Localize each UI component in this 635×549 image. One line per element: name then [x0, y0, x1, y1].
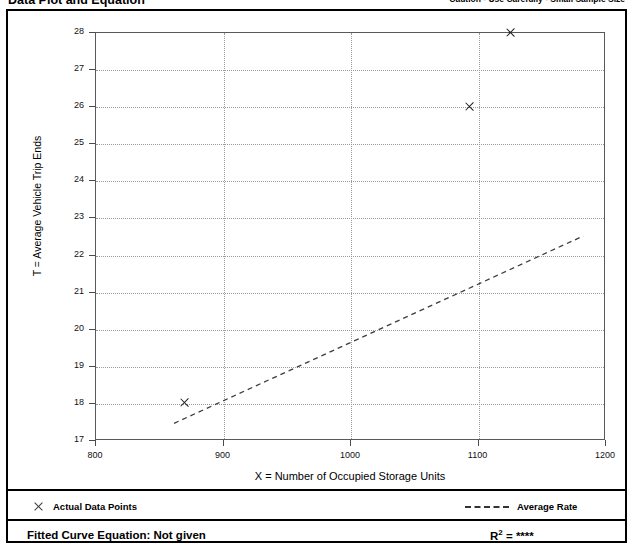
- y-axis-tick-label: 21: [54, 286, 84, 296]
- equation-divider: [8, 519, 625, 521]
- gridline-horizontal: [96, 70, 604, 71]
- plot-area: [95, 32, 605, 440]
- x-axis-tick-label: 1000: [327, 450, 373, 460]
- legend-row: Actual Data Points Average Rate: [0, 493, 635, 517]
- x-axis-tick: [350, 440, 351, 446]
- gridline-vertical: [224, 33, 225, 439]
- y-axis-tick-label: 25: [54, 137, 84, 147]
- gridline-horizontal: [96, 144, 604, 145]
- legend-label-average-rate: Average Rate: [517, 501, 577, 512]
- y-axis-tick-label: 24: [54, 174, 84, 184]
- gridline-horizontal: [96, 367, 604, 368]
- x-marker-icon: [33, 501, 44, 512]
- gridline-horizontal: [96, 404, 604, 405]
- y-axis-tick-label: 20: [54, 323, 84, 333]
- legend-label-actual-data-points: Actual Data Points: [53, 501, 137, 512]
- y-axis-tick: [89, 143, 95, 144]
- gridline-vertical: [479, 33, 480, 439]
- x-axis-tick-label: 900: [200, 450, 246, 460]
- gridline-horizontal: [96, 293, 604, 294]
- legend-divider: [8, 489, 625, 491]
- x-axis-tick-label: 800: [72, 450, 118, 460]
- x-axis-tick: [95, 440, 96, 446]
- y-axis-tick-label: 17: [54, 434, 84, 444]
- y-axis-tick-label: 28: [54, 26, 84, 36]
- r-squared-value: R2 = ****: [490, 528, 534, 542]
- x-axis-tick: [605, 440, 606, 446]
- gridline-horizontal: [96, 181, 604, 182]
- y-axis-tick: [89, 217, 95, 218]
- y-axis-tick: [89, 32, 95, 33]
- y-axis-tick-label: 19: [54, 360, 84, 370]
- y-axis-tick: [89, 180, 95, 181]
- y-axis-tick: [89, 366, 95, 367]
- dashed-line-icon: [465, 506, 509, 508]
- gridline-horizontal: [96, 256, 604, 257]
- y-axis-title: T = Average Vehicle Trip Ends: [31, 91, 43, 321]
- y-axis-tick: [89, 106, 95, 107]
- equation-row: Fitted Curve Equation: Not given R2 = **…: [0, 523, 635, 549]
- y-axis-tick: [89, 329, 95, 330]
- y-axis-tick: [89, 403, 95, 404]
- y-axis-tick: [89, 255, 95, 256]
- r-squared-number: = ****: [506, 530, 534, 542]
- y-axis-tick-label: 26: [54, 100, 84, 110]
- fitted-curve-equation: Fitted Curve Equation: Not given: [27, 529, 206, 541]
- y-axis-tick-label: 22: [54, 249, 84, 259]
- chart-region: T = Average Vehicle Trip Ends X = Number…: [0, 0, 635, 549]
- y-axis-tick: [89, 292, 95, 293]
- r-squared-exponent: 2: [498, 528, 502, 537]
- gridline-horizontal: [96, 107, 604, 108]
- gridline-horizontal: [96, 330, 604, 331]
- y-axis-tick-label: 18: [54, 397, 84, 407]
- gridline-vertical: [351, 33, 352, 439]
- x-axis-title: X = Number of Occupied Storage Units: [95, 470, 605, 482]
- y-axis-tick: [89, 69, 95, 70]
- x-axis-tick: [478, 440, 479, 446]
- gridline-horizontal: [96, 218, 604, 219]
- y-axis-tick-label: 23: [54, 211, 84, 221]
- x-axis-tick-label: 1100: [455, 450, 501, 460]
- x-axis-tick-label: 1200: [582, 450, 628, 460]
- y-axis-tick-label: 27: [54, 63, 84, 73]
- x-axis-tick: [223, 440, 224, 446]
